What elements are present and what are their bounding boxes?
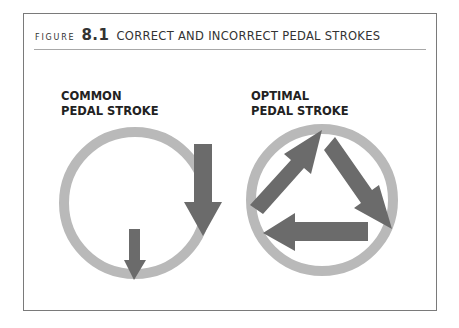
optimal-stroke-graphic	[250, 129, 393, 271]
common-stroke-graphic	[64, 132, 222, 280]
pedal-stroke-diagram	[0, 0, 459, 328]
down-right-arrow-icon	[324, 137, 392, 229]
left-arrow-icon	[263, 213, 368, 251]
